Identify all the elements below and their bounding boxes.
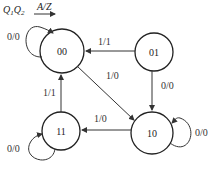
svg-text:1/1: 1/1 bbox=[43, 87, 56, 98]
transition-10-11: 1/0 bbox=[82, 113, 131, 130]
header-legend: Q1Q2 A/Z bbox=[3, 1, 55, 17]
transition-00-00: 0/0 bbox=[7, 27, 53, 57]
transition-11-11: 0/0 bbox=[7, 134, 55, 160]
state-vars-label: Q1Q2 bbox=[3, 4, 25, 17]
svg-text:0/0: 0/0 bbox=[7, 143, 20, 154]
svg-text:0/0: 0/0 bbox=[195, 127, 208, 138]
svg-text:11: 11 bbox=[56, 126, 66, 137]
transition-01-10: 0/0 bbox=[152, 71, 174, 110]
state-01: 01 bbox=[135, 33, 173, 71]
svg-text:01: 01 bbox=[149, 47, 159, 58]
svg-text:1/0: 1/0 bbox=[106, 70, 119, 81]
state-diagram: Q1Q2 A/Z 00 01 10 11 0/0 1/1 1/0 0/0 bbox=[0, 0, 214, 180]
transition-10-10: 0/0 bbox=[170, 118, 208, 147]
transition-00-10: 1/0 bbox=[77, 66, 134, 120]
transition-11-00: 1/1 bbox=[43, 75, 61, 112]
svg-text:0/0: 0/0 bbox=[161, 80, 174, 91]
transition-01-00: 1/1 bbox=[86, 36, 135, 51]
svg-text:00: 00 bbox=[57, 46, 67, 57]
state-10: 10 bbox=[131, 112, 173, 154]
state-11: 11 bbox=[42, 112, 80, 150]
io-label: A/Z bbox=[36, 1, 52, 12]
svg-text:0/0: 0/0 bbox=[7, 31, 20, 42]
svg-text:1/1: 1/1 bbox=[98, 36, 111, 47]
svg-text:1/0: 1/0 bbox=[94, 113, 107, 124]
svg-text:10: 10 bbox=[147, 128, 157, 139]
